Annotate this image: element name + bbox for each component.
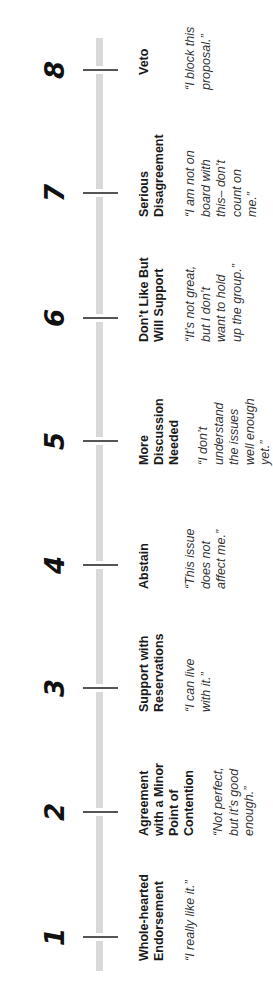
point-number: 8 bbox=[40, 56, 70, 84]
point-quote: “It’s not great, but I don’t want to hol… bbox=[183, 260, 245, 342]
scale-bar bbox=[96, 38, 103, 971]
point-label: Don’t Like But Will Support bbox=[137, 250, 167, 342]
point-quote: “This issue does not affect me.” bbox=[183, 521, 230, 589]
point-label: Veto bbox=[137, 15, 152, 75]
point-quote: “I can live with it.” bbox=[183, 648, 214, 712]
tick-mark bbox=[83, 811, 118, 813]
point-label: Whole-hearted Endorsement bbox=[137, 871, 167, 961]
point-number: 5 bbox=[40, 427, 70, 455]
point-number: 1 bbox=[40, 923, 70, 951]
point-number: 4 bbox=[40, 551, 70, 579]
point-quote: “I don’t understand the issues well enou… bbox=[196, 385, 273, 465]
point-number: 6 bbox=[40, 304, 70, 332]
tick-mark bbox=[83, 564, 118, 566]
tick-mark bbox=[83, 440, 118, 442]
tick-mark bbox=[83, 687, 118, 689]
point-number: 3 bbox=[40, 674, 70, 702]
point-quote: “Not perfect, but it’s good enough.” bbox=[211, 764, 258, 836]
tick-mark bbox=[83, 192, 118, 194]
tick-mark bbox=[83, 69, 118, 71]
point-quote: “I am not on board with this– don’t coun… bbox=[183, 149, 261, 217]
point-number: 7 bbox=[40, 179, 70, 207]
point-label: Abstain bbox=[137, 499, 152, 589]
tick-mark bbox=[83, 936, 118, 938]
point-label: Agreement with a Minor Point of Contenti… bbox=[137, 756, 197, 836]
point-label: Serious Disagreement bbox=[137, 117, 167, 217]
gradients-of-agreement-scale: 1 Whole-hearted Endorsement “I really li… bbox=[0, 0, 273, 995]
tick-mark bbox=[83, 317, 118, 319]
point-quote: “I really like it.” bbox=[183, 851, 199, 961]
point-number: 2 bbox=[40, 798, 70, 826]
point-quote: “I block this proposal.” bbox=[183, 18, 214, 90]
point-label: More Discussion Needed bbox=[137, 389, 182, 465]
point-label: Support with Reservations bbox=[137, 602, 167, 712]
